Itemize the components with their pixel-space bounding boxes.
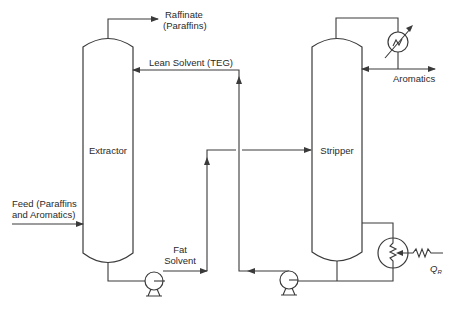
fat-solvent-label: Fat	[173, 244, 187, 255]
extractor-bottoms-line	[108, 262, 148, 281]
aromatics-label: Aromatics	[393, 73, 435, 84]
feed-sublabel: and Aromatics)	[12, 209, 75, 220]
fat-solvent-up-arrow-icon	[204, 157, 210, 165]
heat-duty-subscript: R	[437, 269, 442, 275]
lean-solvent-left-arrow-icon	[247, 268, 255, 274]
fat-solvent-sublabel: Solvent	[164, 255, 196, 266]
lean-solvent-up-arrow-icon	[236, 76, 242, 84]
raffinate-stream: Raffinate (Paraffins)	[108, 9, 207, 38]
feed-label: Feed (Paraffins	[12, 198, 77, 209]
stripper-column: Stripper	[312, 39, 362, 262]
extraction-process-diagram: Extractor Raffinate (Paraffins) Lean Sol…	[0, 0, 453, 310]
condenser-icon	[385, 25, 413, 58]
fat-solvent-stream: Fat Solvent	[163, 150, 311, 271]
raffinate-label: Raffinate	[165, 9, 203, 20]
extractor-label: Extractor	[89, 145, 127, 156]
stripper-label: Stripper	[320, 145, 353, 156]
lean-solvent-label: Lean Solvent (TEG)	[149, 57, 233, 68]
pump-2-icon	[280, 271, 298, 295]
lean-solvent-stream: Lean Solvent (TEG)	[133, 57, 289, 274]
raffinate-sublabel: (Paraffins)	[163, 20, 207, 31]
aromatics-stream: Aromatics	[362, 69, 435, 84]
feed-stream: Feed (Paraffins and Aromatics)	[12, 198, 83, 224]
extractor-column: Extractor	[83, 39, 133, 263]
pump-1-icon	[145, 272, 165, 296]
heat-duty-label: QR	[430, 263, 442, 275]
